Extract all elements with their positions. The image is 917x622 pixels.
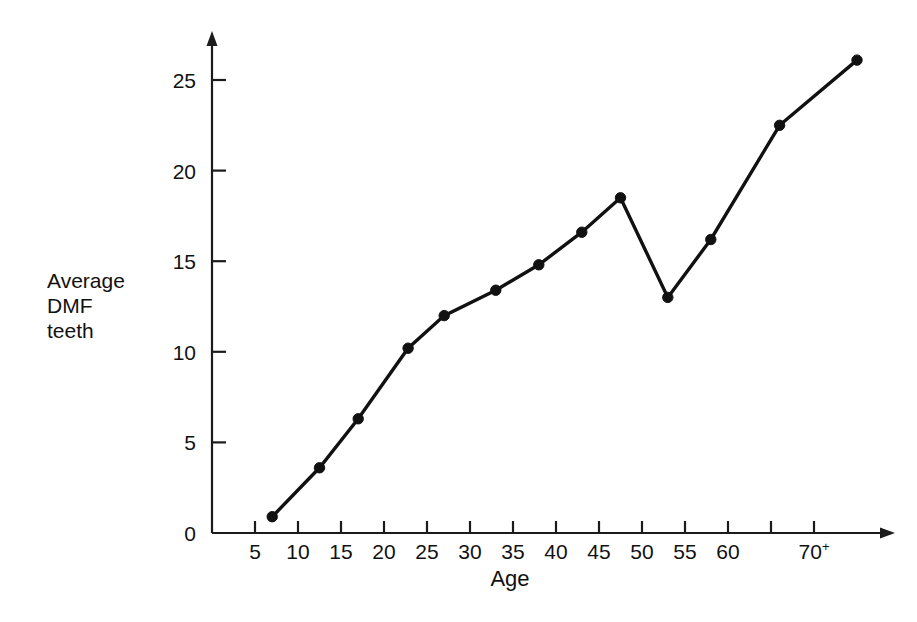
data-series (267, 55, 862, 522)
x-axis-title: Age (490, 566, 529, 592)
x-tick-label: 25 (415, 541, 438, 562)
x-tick-label: 15 (329, 541, 352, 562)
y-axis-title-line-1: Average (47, 268, 125, 293)
data-point-marker (706, 234, 716, 244)
y-tick-label: 0 (160, 523, 196, 544)
x-tick-label: 45 (587, 541, 610, 562)
x-tick-label: 40 (544, 541, 567, 562)
plot-canvas (0, 0, 917, 622)
data-point-marker (314, 463, 324, 473)
data-point-marker (439, 310, 449, 320)
x-tick-label: 10 (286, 541, 309, 562)
x-tick-label: 60 (716, 541, 739, 562)
data-point-marker (353, 414, 363, 424)
y-tick-label: 10 (160, 341, 196, 362)
y-axis-title-line-2: DMF (47, 293, 125, 318)
data-point-marker (852, 55, 862, 65)
x-axis-arrow-icon (880, 528, 895, 539)
x-tick-label: 55 (673, 541, 696, 562)
y-axis-title: Average DMF teeth (47, 268, 125, 343)
data-point-marker (774, 120, 784, 130)
x-tick-label: 35 (501, 541, 524, 562)
x-tick-label: 5 (249, 541, 261, 562)
y-tick-label: 15 (160, 251, 196, 272)
data-point-marker (534, 260, 544, 270)
y-tick-label: 20 (160, 160, 196, 181)
y-tick-label: 5 (160, 432, 196, 453)
data-point-marker (267, 512, 277, 522)
data-point-marker (403, 343, 413, 353)
tick-marks (212, 80, 814, 533)
x-tick-label: 50 (630, 541, 653, 562)
series-polyline (272, 60, 857, 517)
x-tick-label: 20 (372, 541, 395, 562)
y-tick-label: 25 (160, 70, 196, 91)
y-axis-title-line-3: teeth (47, 318, 125, 343)
x-tick-superscript: + (822, 539, 830, 554)
data-point-marker (577, 227, 587, 237)
x-tick-label: 70+ (799, 541, 830, 562)
y-axis-arrow-icon (207, 31, 218, 46)
x-tick-label: 30 (458, 541, 481, 562)
data-point-marker (491, 285, 501, 295)
data-point-marker (615, 193, 625, 203)
data-point-marker (663, 292, 673, 302)
line-chart: 5101520253035404550556070+ 0510152025 Ag… (0, 0, 917, 622)
